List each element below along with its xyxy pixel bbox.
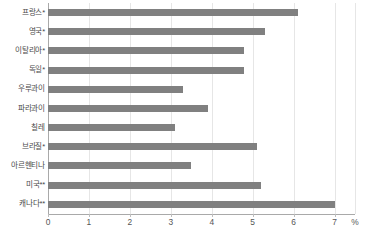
x-tick-label: 4 xyxy=(209,217,214,227)
category-label: 아르헨티나 xyxy=(0,162,45,170)
bar xyxy=(48,105,208,112)
x-axis-line xyxy=(48,214,355,215)
bar-row xyxy=(48,137,355,156)
x-tick-label: 6 xyxy=(291,217,296,227)
bar xyxy=(48,47,244,54)
bar xyxy=(48,67,244,74)
x-axis-unit-label: % xyxy=(351,217,358,227)
bar-row xyxy=(48,176,355,195)
bar xyxy=(48,143,257,150)
x-axis-tick-labels: 0 1 2 3 4 5 6 7 % xyxy=(48,217,368,231)
bar-row xyxy=(48,22,355,41)
bar-row xyxy=(48,41,355,60)
category-label: 캐나다** xyxy=(0,200,45,208)
category-label: 이탈리아* xyxy=(0,47,45,55)
category-label: 독일* xyxy=(0,66,45,74)
x-tick-label: 7 xyxy=(332,217,337,227)
x-tick-label: 1 xyxy=(87,217,92,227)
bar-row xyxy=(48,3,355,22)
gridline xyxy=(355,3,356,214)
bar xyxy=(48,9,298,16)
bar-row xyxy=(48,118,355,137)
bar-row xyxy=(48,156,355,175)
category-label: 우루과이 xyxy=(0,85,45,93)
bar xyxy=(48,28,265,35)
bar xyxy=(48,86,183,93)
category-label: 브라질* xyxy=(0,143,45,151)
x-tick-label: 5 xyxy=(250,217,255,227)
category-label: 영국* xyxy=(0,28,45,36)
bar-row xyxy=(48,80,355,99)
category-label: 파라과이 xyxy=(0,105,45,113)
bar xyxy=(48,124,175,131)
bar-row xyxy=(48,195,355,214)
x-tick-label: 0 xyxy=(46,217,51,227)
bar xyxy=(48,162,191,169)
category-axis-labels: 프랑스* 영국* 이탈리아* 독일* 우루과이 파라과이 칠레 브라질* 아르헨… xyxy=(0,3,45,214)
plot-area xyxy=(48,3,355,214)
category-label: 프랑스* xyxy=(0,9,45,17)
bar-row xyxy=(48,99,355,118)
bar-chart: 프랑스* 영국* 이탈리아* 독일* 우루과이 파라과이 칠레 브라질* 아르헨… xyxy=(0,0,370,239)
bar xyxy=(48,182,261,189)
category-label: 칠레 xyxy=(0,124,45,132)
bar xyxy=(48,201,335,208)
x-tick-label: 3 xyxy=(168,217,173,227)
bar-row xyxy=(48,61,355,80)
x-tick-label: 2 xyxy=(128,217,133,227)
category-label: 미국** xyxy=(0,181,45,189)
